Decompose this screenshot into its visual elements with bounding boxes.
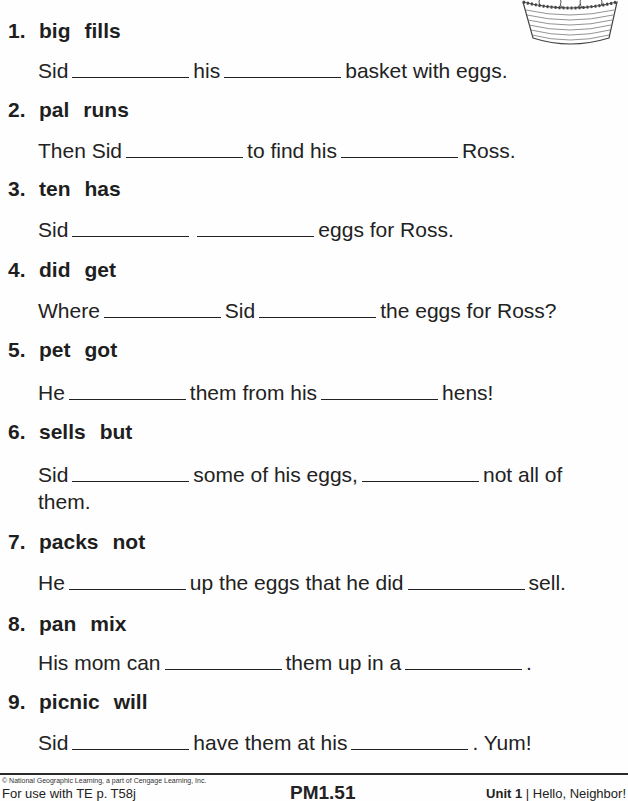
word-choice: pan [39, 612, 76, 636]
answer-blank[interactable] [72, 480, 189, 482]
sentence-text: . Yum! [472, 731, 531, 754]
sentence-text: to find his [247, 139, 337, 162]
word-choice: packs [39, 530, 99, 554]
word-choice: mix [90, 612, 126, 635]
answer-blank[interactable] [197, 235, 314, 237]
unit-separator: | [522, 786, 533, 801]
sentence-text: them from his [190, 381, 317, 404]
answer-blank[interactable] [362, 480, 479, 482]
word-choice: runs [83, 98, 129, 121]
item-5-sentence: Hethem from hishens! [38, 381, 493, 405]
sentence-text: some of his eggs, [193, 463, 358, 486]
item-7-sentence: Heup the eggs that he didsell. [38, 571, 566, 595]
item-4-sentence: WhereSidthe eggs for Ross? [38, 299, 556, 323]
word-choice: pet [39, 338, 71, 362]
answer-blank[interactable] [72, 76, 189, 78]
item-2-sentence: Then Sidto find hisRoss. [38, 139, 516, 163]
word-choice: not [113, 530, 146, 553]
sentence-text: Where [38, 299, 100, 322]
word-choice: get [85, 258, 117, 281]
sentence-text: his [193, 59, 220, 82]
word-choice: got [85, 338, 118, 361]
answer-blank[interactable] [126, 156, 243, 158]
answer-blank[interactable] [72, 748, 189, 750]
item-number: 9. [8, 690, 39, 714]
item-number: 8. [8, 612, 39, 636]
sentence-text: have them at his [193, 731, 347, 754]
sentence-text: Sid [38, 59, 68, 82]
item-4-title: 4.didget [8, 258, 116, 282]
answer-blank[interactable] [104, 316, 221, 318]
item-number: 7. [8, 530, 39, 554]
sentence-text: up the eggs that he did [190, 571, 404, 594]
item-8-title: 8.panmix [8, 612, 127, 636]
answer-blank[interactable] [69, 588, 186, 590]
word-choice: did [39, 258, 71, 282]
unit-title: Hello, Neighbor! [533, 786, 626, 801]
sentence-text: not all of [483, 463, 562, 486]
item-number: 1. [8, 19, 39, 43]
item-1-title: 1.bigfills [8, 19, 121, 43]
page-code: PM1.51 [290, 782, 355, 801]
item-6-title: 6.sellsbut [8, 420, 132, 444]
item-6-sentence-continuation: them. [38, 490, 91, 514]
sentence-text: He [38, 381, 65, 404]
sentence-text: Sid [225, 299, 255, 322]
answer-blank[interactable] [321, 398, 438, 400]
item-number: 5. [8, 338, 39, 362]
unit-label: Unit 1 | Hello, Neighbor! [486, 786, 626, 801]
item-5-title: 5.petgot [8, 338, 117, 362]
sentence-text: He [38, 571, 65, 594]
item-number: 6. [8, 420, 39, 444]
sentence-text: eggs for Ross. [318, 218, 453, 241]
item-number: 4. [8, 258, 39, 282]
word-choice: ten [39, 177, 71, 201]
sentence-text: Ross. [462, 139, 516, 162]
answer-blank[interactable] [408, 588, 525, 590]
item-number: 3. [8, 177, 39, 201]
egg-basket-icon [515, 0, 625, 50]
item-3-sentence: Sideggs for Ross. [38, 218, 454, 242]
copyright-notice: © National Geographic Learning, a part o… [2, 777, 206, 784]
answer-blank[interactable] [341, 156, 458, 158]
sentence-text: hens! [442, 381, 493, 404]
word-choice: will [114, 690, 148, 713]
answer-blank[interactable] [69, 398, 186, 400]
unit-number: Unit 1 [486, 786, 522, 801]
sentence-text: Sid [38, 731, 68, 754]
teacher-edition-reference: For use with TE p. T58j [2, 786, 136, 801]
sentence-text: . [526, 651, 532, 674]
answer-blank[interactable] [224, 76, 341, 78]
item-3-title: 3.tenhas [8, 177, 121, 201]
sentence-text: Sid [38, 463, 68, 486]
word-choice: sells [39, 420, 86, 444]
item-2-title: 2.palruns [8, 98, 129, 122]
sentence-text: His mom can [38, 651, 161, 674]
answer-blank[interactable] [165, 668, 282, 670]
item-6-sentence: Sidsome of his eggs,not all of [38, 463, 562, 487]
word-choice: fills [85, 19, 121, 42]
word-choice: but [100, 420, 133, 443]
answer-blank[interactable] [259, 316, 376, 318]
word-choice: has [85, 177, 121, 200]
sentence-text: the eggs for Ross? [380, 299, 556, 322]
item-7-title: 7.packsnot [8, 530, 145, 554]
answer-blank[interactable] [405, 668, 522, 670]
item-1-sentence: Sidhisbasket with eggs. [38, 59, 507, 83]
answer-blank[interactable] [72, 235, 189, 237]
sentence-text: them up in a [286, 651, 402, 674]
item-9-sentence: Sidhave them at his. Yum! [38, 731, 532, 755]
item-9-title: 9.picnicwill [8, 690, 148, 714]
item-8-sentence: His mom canthem up in a. [38, 651, 532, 675]
footer-divider [0, 773, 628, 775]
sentence-text: basket with eggs. [345, 59, 507, 82]
word-choice: big [39, 19, 71, 43]
word-choice: picnic [39, 690, 100, 714]
answer-blank[interactable] [351, 748, 468, 750]
word-choice: pal [39, 98, 69, 122]
sentence-text: sell. [529, 571, 566, 594]
sentence-text: Sid [38, 218, 68, 241]
item-number: 2. [8, 98, 39, 122]
sentence-text: Then Sid [38, 139, 122, 162]
